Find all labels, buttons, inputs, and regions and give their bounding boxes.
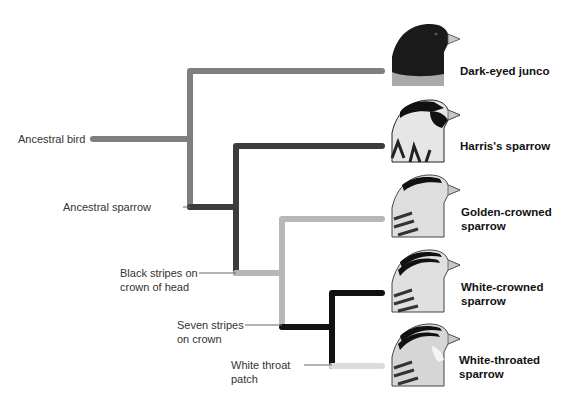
branch-black-stripes <box>236 219 382 327</box>
label-white-throat-line1: White throat <box>231 358 290 372</box>
label-white-throat-line2: patch <box>231 372 258 386</box>
label-ancestral-bird: Ancestral bird <box>18 132 85 146</box>
species-label-golden-crowned-sparrow: Golden-crowned sparrow <box>461 205 552 233</box>
bird-head-golden-crowned-sparrow-icon <box>392 175 460 237</box>
branch-seven-stripes <box>282 293 382 366</box>
label-black-stripes-line2: crown of head <box>120 280 189 294</box>
label-ancestral-sparrow: Ancestral sparrow <box>63 200 151 214</box>
label-black-stripes-line1: Black stripes on <box>120 266 198 280</box>
bird-head-dark-eyed-junco-icon <box>392 24 460 86</box>
species-label-white-throated-sparrow: White-throated sparrow <box>459 353 540 381</box>
bird-head-white-crowned-sparrow-icon <box>392 250 460 312</box>
label-seven-stripes-line2: on crown <box>177 332 222 346</box>
species-label-dark-eyed-junco: Dark-eyed junco <box>460 64 549 78</box>
species-label-harris-sparrow: Harris's sparrow <box>460 139 550 153</box>
label-seven-stripes-line1: Seven stripes <box>177 318 244 332</box>
bird-head-harris-sparrow-icon <box>392 100 460 162</box>
branch-ancestral-sparrow <box>190 146 382 273</box>
bird-head-white-throated-sparrow-icon <box>392 324 460 386</box>
species-label-white-crowned-sparrow: White-crowned sparrow <box>461 280 543 308</box>
phylogenetic-tree <box>0 0 562 394</box>
